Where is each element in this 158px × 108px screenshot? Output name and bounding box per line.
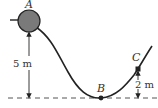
label-A: A [24,0,33,11]
point-B [99,96,104,101]
point-C [136,67,141,72]
height-label-C: 2 m [135,79,155,90]
height-label-A: 5 m [13,58,33,69]
label-B: B [96,82,105,95]
ball-icon [18,10,40,32]
track-diagram: A 5 m B C 2 m [0,0,158,108]
label-C: C [132,51,141,64]
